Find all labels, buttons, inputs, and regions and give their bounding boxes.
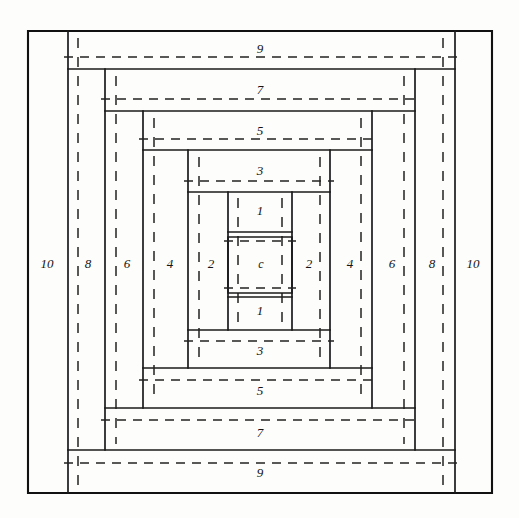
labels-right-group: 2 4 6 8 10 — [306, 256, 480, 271]
label-bottom-7: 7 — [257, 425, 264, 440]
label-left-6: 6 — [124, 256, 131, 271]
label-top-9: 9 — [257, 41, 264, 56]
label-right-2: 2 — [306, 256, 313, 271]
label-right-10: 10 — [467, 256, 481, 271]
quilt-block-diagram: 9 7 5 3 1 1 3 5 7 9 10 8 6 4 2 2 4 6 8 1… — [0, 0, 519, 518]
label-bottom-9: 9 — [257, 465, 264, 480]
label-left-10: 10 — [41, 256, 55, 271]
label-right-6: 6 — [389, 256, 396, 271]
label-top-1: 1 — [257, 203, 264, 218]
label-center-c: c — [258, 257, 264, 271]
label-left-4: 4 — [167, 256, 174, 271]
label-top-5: 5 — [257, 123, 264, 138]
label-top-3: 3 — [256, 163, 264, 178]
quilt-block-svg: 9 7 5 3 1 1 3 5 7 9 10 8 6 4 2 2 4 6 8 1… — [0, 0, 519, 518]
label-right-8: 8 — [429, 256, 436, 271]
label-top-7: 7 — [257, 82, 264, 97]
label-bottom-3: 3 — [256, 343, 264, 358]
label-left-2: 2 — [208, 256, 215, 271]
label-left-8: 8 — [85, 256, 92, 271]
label-right-4: 4 — [347, 256, 354, 271]
label-bottom-1: 1 — [257, 303, 264, 318]
label-bottom-5: 5 — [257, 383, 264, 398]
